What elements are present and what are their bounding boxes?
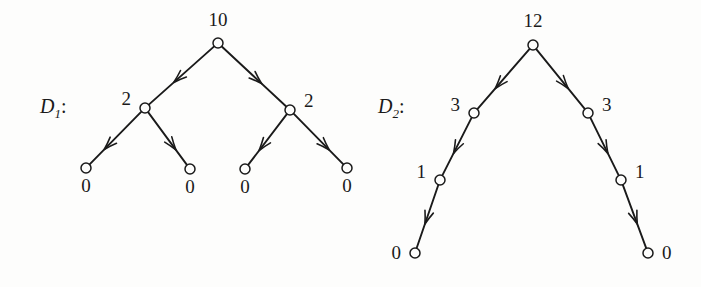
d1-leaf-1-value: 0 — [81, 175, 91, 196]
d2-left-1[interactable] — [435, 175, 445, 185]
d1-edge-right-leaf3-line — [248, 114, 286, 164]
d2-right-0-value: 0 — [662, 242, 672, 263]
d2-right-0[interactable] — [643, 248, 653, 258]
diagram-D2: 12331100D2: — [377, 10, 672, 263]
figure-canvas: 10220000D1:12331100D2: — [0, 0, 701, 287]
d2-right-1[interactable] — [616, 175, 626, 185]
d1-edge-left-leaf2-line — [148, 112, 186, 164]
d2-root[interactable] — [528, 40, 538, 50]
d1-edge-left-leaf2 — [148, 112, 186, 164]
d1-leaf-1[interactable] — [81, 163, 91, 173]
d1-edge-left-leaf1 — [90, 112, 141, 164]
tree-diagram-svg: 10220000D1:12331100D2: — [0, 0, 701, 287]
d1-leaf-2[interactable] — [185, 164, 195, 174]
d1-edge-left-leaf1-line — [90, 112, 141, 164]
diagram-label-letter-D1: D — [39, 95, 55, 117]
d1-edge-right-leaf4 — [294, 114, 343, 164]
d2-edge-root-left3-line — [478, 49, 530, 109]
d2-edge-root-right3 — [536, 49, 584, 108]
d1-edge-root-left — [149, 47, 214, 105]
d1-edge-right-leaf4-line — [294, 114, 343, 164]
d2-edge-right3-right1-line — [590, 118, 618, 175]
d1-edge-right-leaf3 — [248, 114, 286, 164]
diagram-label-colon-D2: : — [399, 95, 405, 117]
d2-right-3-value: 3 — [602, 94, 612, 115]
d2-left-3[interactable] — [469, 108, 479, 118]
d2-root-value: 12 — [524, 10, 543, 31]
d1-leaf-2-value: 0 — [185, 176, 195, 197]
d2-left-0[interactable] — [410, 248, 420, 258]
d2-right-3[interactable] — [583, 108, 593, 118]
d1-right-child-value: 2 — [304, 90, 314, 111]
d1-leaf-3[interactable] — [240, 164, 250, 174]
d2-edge-left3-left1 — [442, 118, 471, 175]
d2-edge-left3-left1-line — [442, 118, 471, 175]
d2-left-0-value: 0 — [392, 242, 402, 263]
d1-edge-root-right-line — [222, 47, 286, 107]
d1-root-value: 10 — [209, 9, 228, 30]
d2-edge-left1-left0 — [417, 185, 438, 248]
diagram-label-letter-D2: D — [377, 95, 393, 117]
d2-edge-right3-right1 — [590, 118, 618, 175]
d2-edge-right1-right0 — [623, 185, 646, 248]
d2-edge-right1-right0-line — [623, 185, 646, 248]
d1-leaf-4-value: 0 — [342, 175, 352, 196]
d1-edge-root-left-line — [149, 47, 214, 105]
d2-left-3-value: 3 — [451, 94, 461, 115]
diagram-label-colon-D1: : — [61, 95, 67, 117]
d1-left-child[interactable] — [140, 103, 150, 113]
d2-edge-left1-left0-line — [417, 185, 438, 248]
diagram-label-D2: D2: — [377, 95, 405, 121]
d1-left-child-value: 2 — [122, 88, 132, 109]
d1-leaf-3-value: 0 — [240, 176, 250, 197]
d1-right-child[interactable] — [285, 105, 295, 115]
d1-edge-root-right — [222, 47, 286, 107]
d2-edge-root-left3 — [478, 49, 530, 109]
d1-leaf-4[interactable] — [342, 163, 352, 173]
diagram-D1: 10220000D1: — [39, 9, 352, 197]
d1-root[interactable] — [213, 38, 223, 48]
d2-left-1-value: 1 — [417, 161, 427, 182]
d2-right-1-value: 1 — [635, 161, 645, 182]
diagram-label-D1: D1: — [39, 95, 67, 121]
d2-edge-root-right3-line — [536, 49, 584, 108]
